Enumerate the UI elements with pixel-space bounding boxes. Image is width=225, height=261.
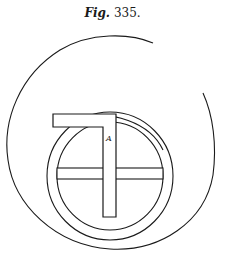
l-square xyxy=(53,114,116,217)
label-a: A xyxy=(106,134,112,143)
figure-drawing xyxy=(0,0,225,261)
